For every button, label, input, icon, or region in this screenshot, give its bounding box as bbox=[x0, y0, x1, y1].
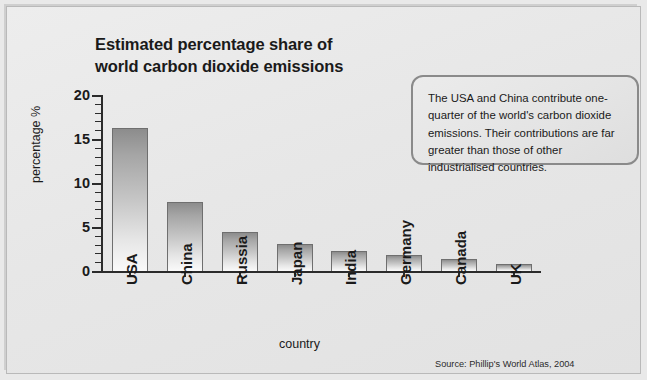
x-axis-category-label: Canada bbox=[452, 231, 469, 285]
callout-text: The USA and China contribute one-quarter… bbox=[428, 90, 623, 177]
x-axis-line bbox=[101, 271, 541, 273]
y-axis-minor-tick bbox=[95, 113, 101, 114]
y-axis-minor-tick bbox=[95, 236, 101, 237]
y-axis-title: percentage % bbox=[29, 106, 43, 183]
bar-group: Japan bbox=[267, 95, 322, 271]
y-axis-minor-tick bbox=[95, 121, 101, 122]
x-axis-category-label: Russia bbox=[233, 236, 250, 285]
bar-group: Russia bbox=[213, 95, 268, 271]
chart-title-line-2: world carbon dioxide emissions bbox=[95, 56, 415, 78]
bar-group: China bbox=[158, 95, 213, 271]
callout-box: The USA and China contribute one-quarter… bbox=[411, 75, 639, 165]
y-axis-minor-tick bbox=[95, 209, 101, 210]
y-axis-minor-tick bbox=[95, 157, 101, 158]
y-axis-major-tick bbox=[92, 271, 101, 273]
y-axis-tick-label: 10 bbox=[74, 175, 90, 191]
chart-title-line-1: Estimated percentage share of bbox=[95, 34, 415, 56]
y-axis-minor-tick bbox=[95, 104, 101, 105]
y-axis-minor-tick bbox=[95, 253, 101, 254]
x-axis-category-label: UK bbox=[507, 263, 524, 285]
x-axis-category-label: USA bbox=[123, 253, 140, 285]
y-axis-minor-tick bbox=[95, 165, 101, 166]
y-axis-major-tick bbox=[92, 183, 101, 185]
y-axis-minor-tick bbox=[95, 245, 101, 246]
x-axis-category-label: Japan bbox=[288, 242, 305, 285]
chart-title: Estimated percentage share of world carb… bbox=[95, 34, 415, 78]
x-axis-category-label: Germany bbox=[397, 220, 414, 285]
y-axis-tick-label: 0 bbox=[82, 263, 90, 279]
y-axis-major-tick bbox=[92, 139, 101, 141]
y-axis-tick-label: 5 bbox=[82, 219, 90, 235]
y-axis-tick-label: 20 bbox=[74, 87, 90, 103]
bar-group: USA bbox=[103, 95, 158, 271]
x-axis-title: country bbox=[279, 337, 320, 351]
source-attribution: Source: Phillip's World Atlas, 2004 bbox=[435, 359, 574, 369]
y-axis-minor-tick bbox=[95, 218, 101, 219]
x-axis-category-label: India bbox=[342, 250, 359, 285]
y-axis-minor-tick bbox=[95, 192, 101, 193]
y-axis-major-tick bbox=[92, 227, 101, 229]
y-axis-minor-tick bbox=[95, 148, 101, 149]
chart-page: Estimated percentage share of world carb… bbox=[0, 0, 647, 380]
y-axis-minor-tick bbox=[95, 262, 101, 263]
y-axis-major-tick bbox=[92, 95, 101, 97]
y-axis-minor-tick bbox=[95, 174, 101, 175]
x-axis-category-label: China bbox=[178, 243, 195, 285]
y-axis-minor-tick bbox=[95, 201, 101, 202]
y-axis-tick-label: 15 bbox=[74, 131, 90, 147]
y-axis-minor-tick bbox=[95, 130, 101, 131]
bar[interactable] bbox=[112, 128, 148, 271]
bar-group: India bbox=[322, 95, 377, 271]
chart-frame: Estimated percentage share of world carb… bbox=[6, 6, 641, 374]
